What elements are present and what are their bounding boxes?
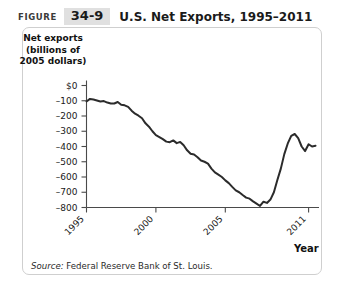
y-tick-label: –200 [56,111,78,121]
y-tick-label: –400 [56,142,78,152]
x-tick-mark-group [87,208,309,213]
y-tick-label: –600 [56,172,78,182]
source-label: Source: [31,261,64,271]
y-tick-label-group: $0–100–200–300–400–500–600–700–800 [56,81,78,213]
x-tick-label: 2005 [201,214,224,237]
source-note: Source: Federal Reserve Bank of St. Loui… [31,261,213,271]
y-tick-label: $0 [66,81,78,91]
x-tick-label: 1995 [63,214,86,237]
y-tick-label: –300 [56,126,78,136]
x-tick-label: 2011 [285,214,308,237]
x-axis-title: Year [294,243,319,254]
y-tick-label: –500 [56,157,78,167]
y-tick-mark-group [82,86,87,208]
x-tick-label-group: 1995200020052011 [63,214,308,237]
net-exports-line [87,99,316,206]
source-text: Federal Reserve Bank of St. Louis. [64,261,213,271]
y-tick-label: –100 [56,96,78,106]
y-tick-label: –800 [56,203,78,213]
x-tick-label: 2000 [132,214,155,237]
y-tick-label: –700 [56,187,78,197]
figure-container: FIGURE 34-9 U.S. Net Exports, 1995–2011 … [0,0,348,291]
